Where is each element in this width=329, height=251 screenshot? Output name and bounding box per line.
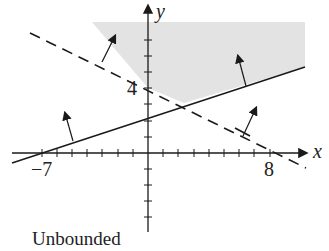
direction-arrow [243,108,256,136]
inequality-graph [0,0,329,251]
y-tick-label-4: 4 [127,77,137,100]
caption: Unbounded [32,228,121,250]
x-axis-label: x [313,140,322,163]
y-axis-label: y [156,0,165,23]
x-tick-label-neg7: −7 [31,158,52,181]
feasible-region [92,22,305,103]
x-tick-label-8: 8 [264,158,274,181]
boundary-tick [235,128,250,136]
direction-arrow [65,113,73,141]
